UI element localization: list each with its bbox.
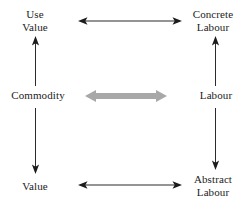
node-label-concrete-labour: Concrete Labour — [178, 8, 248, 33]
node-label-commodity: Commodity — [0, 89, 76, 102]
node-label-use-value: Use Value — [2, 8, 68, 33]
arrow-labour-to-abstract-labour — [207, 108, 224, 170]
arrow-value-abstract-labour — [78, 178, 182, 192]
arrow-commodity-to-value — [27, 108, 44, 174]
arrow-commodity-labour — [85, 86, 167, 106]
node-label-value: Value — [2, 180, 68, 193]
arrow-commodity-to-use-value — [27, 36, 44, 86]
node-label-labour: Labour — [183, 89, 249, 102]
arrow-use-value-concrete-labour — [78, 14, 182, 28]
arrow-labour-to-concrete-labour — [207, 36, 224, 86]
diagram-canvas: Use Value Concrete Labour Commodity Labo… — [0, 0, 250, 207]
node-label-abstract-labour: Abstract Labour — [178, 173, 248, 198]
